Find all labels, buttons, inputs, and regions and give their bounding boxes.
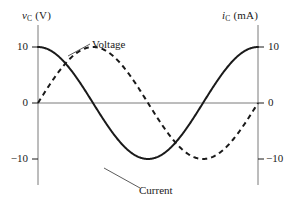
right-axis-subscript: C (225, 14, 230, 23)
voltage-leader-line (68, 44, 90, 56)
left-axis-unit: (V) (35, 9, 51, 21)
right-axis-unit: (mA) (233, 9, 258, 21)
voltage-label: Voltage (92, 38, 125, 50)
left-axis-title: vC (V) (22, 9, 51, 23)
plot-canvas (0, 0, 296, 211)
current-label: Current (139, 184, 173, 196)
right-tick-label-minus10: −10 (266, 152, 283, 164)
right-axis-title: iC (mA) (222, 9, 258, 23)
left-tick-label-0: 0 (4, 96, 28, 108)
left-axis-subscript: C (27, 14, 32, 23)
right-tick-label-10: 10 (268, 40, 279, 52)
capacitor-waveform-figure: vC (V) iC (mA) 10 0 −10 10 0 −10 Voltage… (0, 0, 296, 211)
left-tick-label-minus10: −10 (0, 152, 28, 164)
current-leader-line (104, 168, 140, 188)
left-tick-label-10: 10 (4, 40, 28, 52)
right-tick-label-0: 0 (268, 96, 274, 108)
